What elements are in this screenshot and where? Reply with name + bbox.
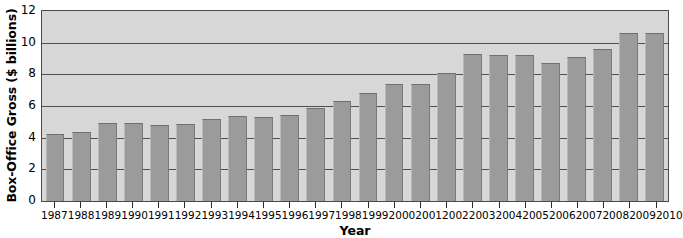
bar[interactable]	[489, 55, 508, 201]
x-axis-tick-mark	[341, 202, 342, 208]
bar-series	[42, 11, 668, 201]
bar-slot	[68, 11, 94, 201]
x-axis-tick-label: 2003	[469, 209, 496, 223]
x-axis-tick-mark	[499, 202, 500, 208]
x-axis-tick-slot	[591, 202, 617, 209]
x-axis-tick-mark	[551, 202, 552, 208]
x-axis-tick-slot	[355, 202, 381, 209]
bar-slot	[537, 11, 563, 201]
bar[interactable]	[385, 84, 404, 201]
x-axis-tick-label: 1998	[335, 209, 362, 223]
x-axis-tick-label: 1996	[282, 209, 309, 223]
x-axis-tick-mark	[158, 202, 159, 208]
x-axis-tick-mark	[446, 202, 447, 208]
bar[interactable]	[645, 33, 664, 201]
x-axis-tick-label: 2010	[656, 209, 683, 223]
x-axis-tick-mark	[603, 202, 604, 208]
bar[interactable]	[567, 57, 586, 201]
y-axis-title: Box-Office Gross ($ billions)	[0, 0, 22, 210]
x-axis-tick-slot	[407, 202, 433, 209]
bar-slot	[459, 11, 485, 201]
bar[interactable]	[619, 33, 638, 201]
x-axis-tick-label: 2009	[629, 209, 656, 223]
x-axis-tick-label: 1988	[68, 209, 95, 223]
bar[interactable]	[359, 93, 378, 201]
bar-slot	[564, 11, 590, 201]
bar[interactable]	[254, 117, 273, 201]
x-axis-tick-mark	[54, 202, 55, 208]
x-axis-tick-slot	[381, 202, 407, 209]
bar[interactable]	[306, 108, 325, 201]
x-axis-tick-mark	[629, 202, 630, 208]
x-axis-tick-mark	[289, 202, 290, 208]
x-axis-tick-label: 1990	[121, 209, 148, 223]
x-axis-tick-mark	[420, 202, 421, 208]
bar[interactable]	[72, 132, 91, 201]
x-axis-tick-slot	[172, 202, 198, 209]
x-axis-tick-slot	[41, 202, 67, 209]
x-axis-tick-label: 1995	[255, 209, 282, 223]
plot-area	[41, 10, 669, 202]
bar[interactable]	[333, 101, 352, 201]
bar-slot	[198, 11, 224, 201]
x-axis-tick-mark	[368, 202, 369, 208]
bar[interactable]	[463, 54, 482, 201]
x-axis-tick-slot	[120, 202, 146, 209]
x-axis-tick-label: 1987	[41, 209, 68, 223]
bar[interactable]	[176, 124, 195, 201]
bar-slot	[329, 11, 355, 201]
x-axis-tick-slot	[617, 202, 643, 209]
x-axis-tick-mark	[211, 202, 212, 208]
x-axis-tick-mark	[472, 202, 473, 208]
bar-slot	[251, 11, 277, 201]
x-axis-tick-labels: 1987198819891990199119921993199419951996…	[41, 209, 669, 223]
x-axis-tick-mark	[132, 202, 133, 208]
x-axis-tick-slot	[329, 202, 355, 209]
x-axis-tick-label: 2000	[389, 209, 416, 223]
bar[interactable]	[437, 73, 456, 201]
x-axis-tick-label: 2008	[602, 209, 629, 223]
bar[interactable]	[124, 123, 143, 201]
bar-slot	[485, 11, 511, 201]
x-axis-tick-mark	[525, 202, 526, 208]
x-axis-tick-slot	[277, 202, 303, 209]
bar-slot	[407, 11, 433, 201]
bar[interactable]	[150, 125, 169, 201]
x-axis-tick-mark	[106, 202, 107, 208]
bar[interactable]	[541, 63, 560, 201]
bar[interactable]	[515, 55, 534, 201]
x-axis-tick-slot	[224, 202, 250, 209]
bar[interactable]	[98, 123, 117, 201]
bar[interactable]	[593, 49, 612, 201]
x-axis-tick-mark	[656, 202, 657, 208]
x-axis-tick-label: 2007	[576, 209, 603, 223]
x-axis-tick-slot	[643, 202, 669, 209]
y-axis-tick-label: 4	[28, 130, 36, 144]
x-axis-tick-label: 2002	[442, 209, 469, 223]
bar[interactable]	[411, 84, 430, 201]
x-axis-tick-mark	[237, 202, 238, 208]
x-axis-tick-slot	[434, 202, 460, 209]
bar[interactable]	[46, 134, 65, 201]
bar-slot	[303, 11, 329, 201]
x-axis-tick-slot	[564, 202, 590, 209]
bar-slot	[277, 11, 303, 201]
y-axis-tick-label: 8	[28, 66, 36, 80]
x-axis-tick-label: 2006	[549, 209, 576, 223]
bar-slot	[381, 11, 407, 201]
y-axis-tick-label: 10	[21, 35, 36, 49]
x-axis-tick-label: 2005	[522, 209, 549, 223]
bar[interactable]	[228, 116, 247, 201]
x-axis-title: Year	[41, 223, 669, 238]
x-axis-tick-label: 1992	[175, 209, 202, 223]
bar-slot	[225, 11, 251, 201]
bar[interactable]	[202, 119, 221, 201]
bar-slot	[616, 11, 642, 201]
bar[interactable]	[280, 115, 299, 201]
x-axis-tick-slot	[303, 202, 329, 209]
x-axis-tick-mark	[577, 202, 578, 208]
x-axis-tick-slot	[460, 202, 486, 209]
x-axis-tick-mark	[80, 202, 81, 208]
y-axis-tick-labels: 024681012	[20, 0, 40, 238]
